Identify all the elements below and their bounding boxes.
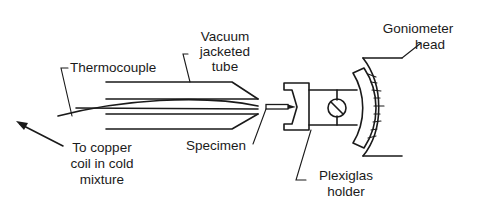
vacuum-jacketed-tube: [106, 82, 258, 129]
label-specimen: Specimen: [186, 138, 246, 153]
svg-text:jacketed: jacketed: [199, 44, 250, 59]
svg-text:mixture: mixture: [80, 172, 124, 187]
label-vacuum-jacketed-tube: Vacuum jacketed tube: [199, 29, 250, 74]
svg-text:Vacuum: Vacuum: [201, 29, 250, 44]
diagram-canvas: Vacuum jacketed tube Thermocouple Goniom…: [0, 0, 480, 206]
plexiglas-holder: [284, 83, 357, 130]
svg-text:head: head: [415, 37, 445, 52]
label-copper-coil: To copper coil in cold mixture: [70, 140, 133, 187]
label-plexiglas-holder: Plexiglas holder: [319, 168, 373, 199]
specimen: [266, 105, 296, 110]
label-thermocouple: Thermocouple: [70, 60, 156, 75]
goniometer-head: [353, 58, 402, 156]
label-goniometer-head: Goniometer head: [383, 21, 454, 52]
svg-text:Goniometer: Goniometer: [383, 21, 454, 36]
svg-text:coil in cold: coil in cold: [70, 156, 133, 171]
arrow-icon: [16, 121, 63, 146]
svg-text:To copper: To copper: [72, 140, 132, 155]
svg-text:tube: tube: [212, 59, 238, 74]
svg-text:holder: holder: [327, 184, 365, 199]
svg-text:Plexiglas: Plexiglas: [319, 168, 373, 183]
